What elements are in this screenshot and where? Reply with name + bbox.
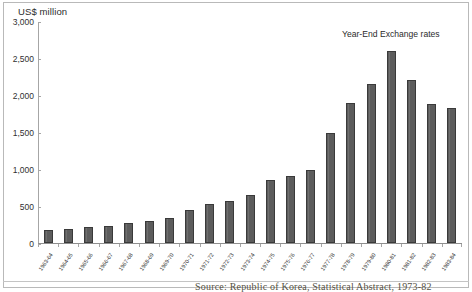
y-axis-tick-label: 3,000 — [13, 17, 34, 27]
x-axis-tick-label: 1965-66 — [77, 252, 93, 272]
y-axis-tick-label: 1,500 — [13, 128, 34, 138]
x-axis-tick-label: 1969-70 — [158, 252, 174, 272]
bar — [145, 221, 154, 243]
x-axis-tick-label: 1968-69 — [138, 252, 154, 272]
bar-highlight — [429, 105, 430, 242]
plot-area — [38, 22, 462, 244]
bar-highlight — [106, 227, 107, 242]
y-axis-tick-mark — [38, 170, 41, 171]
bar-highlight — [389, 52, 390, 242]
bar — [64, 229, 73, 243]
x-axis-tick-label: 1971-72 — [199, 252, 215, 272]
x-axis-tick-label: 1982-83 — [421, 252, 437, 272]
y-axis-tick-mark — [38, 207, 41, 208]
bar — [84, 227, 93, 243]
bar-highlight — [409, 81, 410, 242]
bar — [346, 103, 355, 243]
bar — [286, 176, 295, 243]
y-axis-tick-mark — [38, 96, 41, 97]
bar-highlight — [227, 202, 228, 242]
bar — [266, 180, 275, 243]
bar-highlight — [288, 177, 289, 242]
bar — [246, 195, 255, 243]
x-axis-tick-label: 1980-81 — [380, 252, 396, 272]
x-axis-tick-label: 1963-64 — [37, 252, 53, 272]
bar-highlight — [207, 205, 208, 242]
bar — [447, 108, 456, 243]
bar-highlight — [369, 85, 370, 242]
bar-highlight — [187, 211, 188, 242]
bar — [185, 210, 194, 243]
bar-highlight — [268, 181, 269, 242]
bar — [124, 223, 133, 243]
x-axis-tick-label: 1978-79 — [340, 252, 356, 272]
bar — [104, 226, 113, 243]
bar — [427, 104, 436, 243]
x-axis-tick-label: 1970-71 — [178, 252, 194, 272]
bar — [44, 230, 53, 243]
bar-highlight — [308, 171, 309, 242]
bar — [306, 170, 315, 243]
x-axis-tick-label: 1977-78 — [320, 252, 336, 272]
chart-screenshot: US$ million Year-End Exchange rates 0500… — [0, 0, 472, 292]
x-axis-tick-label: 1972-73 — [219, 252, 235, 272]
bar-highlight — [66, 230, 67, 242]
bar-highlight — [46, 231, 47, 242]
x-axis-tick-label: 1979-80 — [360, 252, 376, 272]
bar — [205, 204, 214, 243]
bar-highlight — [449, 109, 450, 242]
x-axis-tick-label: 1975-76 — [279, 252, 295, 272]
y-axis-tick-label: 0 — [29, 239, 34, 249]
y-axis-tick-mark — [38, 22, 41, 23]
bar-highlight — [86, 228, 87, 242]
bar-highlight — [348, 104, 349, 242]
x-axis-tick-label: 1973-74 — [239, 252, 255, 272]
y-axis-tick-label: 2,000 — [13, 91, 34, 101]
x-axis-tick-label: 1964-65 — [57, 252, 73, 272]
bar-highlight — [126, 224, 127, 242]
bar — [407, 80, 416, 243]
x-axis-tick-label: 1976-77 — [300, 252, 316, 272]
bar — [225, 201, 234, 243]
bar-highlight — [328, 134, 329, 242]
bar — [367, 84, 376, 243]
x-axis-tick-label: 1967-68 — [118, 252, 134, 272]
y-axis-title: US$ million — [18, 6, 67, 17]
y-axis-tick-mark — [38, 133, 41, 134]
x-axis-tick-label: 1981-82 — [400, 252, 416, 272]
x-axis-tick-labels: 1963-641964-651965-661966-671967-681968-… — [38, 247, 462, 281]
bar — [387, 51, 396, 243]
y-axis-tick-mark — [38, 59, 41, 60]
x-axis-tick-label: 1974-75 — [259, 252, 275, 272]
y-axis-tick-label: 1,000 — [13, 165, 34, 175]
bar-highlight — [248, 196, 249, 242]
bar-highlight — [167, 219, 168, 242]
y-axis-tick-label: 2,500 — [13, 54, 34, 64]
y-axis-tick-labels: 05001,0001,5002,0002,5003,000 — [0, 22, 34, 244]
caption-strip: Source: Republic of Korea, Statistical A… — [3, 282, 469, 292]
bar-highlight — [147, 222, 148, 242]
bar — [165, 218, 174, 243]
source-caption: Source: Republic of Korea, Statistical A… — [195, 282, 432, 292]
y-axis-tick-label: 500 — [20, 202, 34, 212]
x-axis-tick-label: 1983-84 — [441, 252, 457, 272]
x-axis-tick-label: 1966-67 — [98, 252, 114, 272]
bar — [326, 133, 335, 243]
